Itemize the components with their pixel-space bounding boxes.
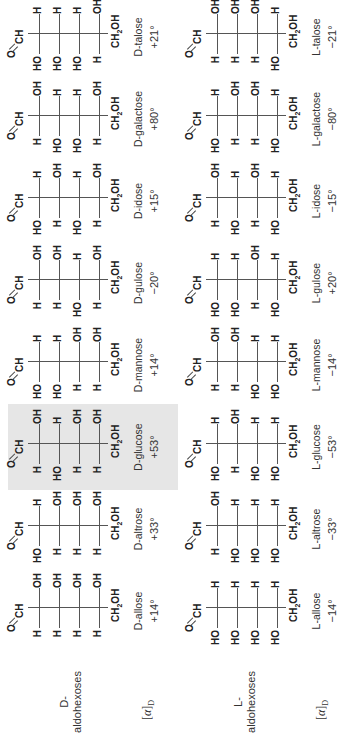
left-substituent: HO — [270, 56, 281, 71]
horizontal-bond — [237, 424, 238, 464]
stereocenter-c2: HOH — [32, 240, 46, 326]
ch-label: CH — [14, 30, 25, 44]
left-substituent: H — [32, 138, 43, 145]
horizontal-bond — [237, 178, 238, 218]
right-substituent: H — [230, 171, 241, 178]
stereocenter-c5: HOH — [92, 76, 106, 162]
d-row-label: D- aldohexoses — [58, 662, 84, 742]
subscript: 2 — [116, 112, 123, 116]
aldehyde-group: OCH — [14, 30, 25, 44]
hydroxymethyl-group: CH2OH — [288, 97, 301, 130]
left-substituent: H — [92, 466, 103, 473]
horizontal-bond — [99, 96, 100, 136]
right-substituent: OH — [72, 573, 83, 588]
stereocenter-c3: HOH — [230, 486, 244, 572]
ch-label: CH — [14, 194, 25, 208]
horizontal-bond — [237, 588, 238, 628]
hydroxymethyl-group: CH2OH — [288, 507, 301, 540]
fischer-projection-d-idose: OCHHOHHOHHOHHOHCH2OHD-idose+15° — [8, 158, 178, 244]
horizontal-bond — [59, 342, 60, 382]
right-substituent: OH — [92, 81, 103, 96]
ch-label: CH — [192, 194, 203, 208]
left-substituent: HO — [72, 220, 83, 235]
ch-label: CH — [14, 112, 25, 126]
left-substituent: HO — [270, 302, 281, 317]
sugar-name: D-talose — [132, 0, 144, 87]
right-substituent: OH — [32, 245, 43, 260]
right-substituent: H — [230, 499, 241, 506]
stereocenter-c2: HOH — [210, 240, 224, 326]
right-substituent: H — [52, 89, 63, 96]
ch-label: CH — [192, 276, 203, 290]
left-substituent: HO — [210, 138, 221, 153]
horizontal-bond — [237, 96, 238, 136]
left-substituent: HO — [250, 466, 261, 481]
fischer-projection-l-talose: OCHHOHHOHHOHHOHCH2OHL-talose−21° — [186, 0, 356, 80]
fischer-projection-d-gulose: OCHHOHHOHHOHHOHCH2OHD-gulose−20° — [8, 240, 178, 326]
fischer-structure: OCHHOHHOHHOHHOHCH2OH — [192, 568, 310, 654]
stereocenter-c4: HOH — [250, 486, 264, 572]
left-substituent: H — [230, 384, 241, 391]
stereocenter-c4: HOH — [72, 322, 86, 408]
stereocenter-c2: HOH — [210, 486, 224, 572]
right-substituent: OH — [230, 327, 241, 342]
stereocenter-c5: HOH — [92, 240, 106, 326]
ch-label: CH — [14, 522, 25, 536]
horizontal-bond — [237, 506, 238, 546]
stereocenter-c5: HOH — [92, 404, 106, 490]
subscript: 2 — [116, 358, 123, 362]
left-substituent: HO — [230, 302, 241, 317]
right-substituent: H — [270, 581, 281, 588]
right-substituent: H — [32, 499, 43, 506]
stereocenter-c2: HOH — [32, 0, 46, 80]
ch-label: CH — [14, 440, 25, 454]
stereocenter-c4: HOH — [72, 0, 86, 80]
stereocenter-c2: HOH — [210, 404, 224, 490]
hydroxymethyl-group: CH2OH — [110, 15, 123, 48]
hydroxymethyl-group: CH2OH — [288, 589, 301, 622]
horizontal-bond — [59, 14, 60, 54]
left-substituent: HO — [52, 138, 63, 153]
right-substituent: OH — [32, 409, 43, 424]
left-substituent: H — [250, 220, 261, 227]
right-substituent: OH — [92, 573, 103, 588]
fischer-structure: OCHHOHHOHHOHHOHCH2OH — [192, 0, 310, 80]
stereocenter-c5: HOH — [270, 404, 284, 490]
left-substituent: HO — [72, 302, 83, 317]
aldehyde-group: OCH — [14, 358, 25, 372]
aldehyde-group: OCH — [192, 522, 203, 536]
right-substituent: H — [250, 581, 261, 588]
horizontal-bond — [39, 588, 40, 628]
right-substituent: H — [270, 7, 281, 14]
left-substituent: H — [92, 138, 103, 145]
horizontal-bond — [39, 96, 40, 136]
aldehyde-group: OCH — [14, 604, 25, 618]
subscript: 2 — [116, 276, 123, 280]
fischer-projection-l-mannose: OCHHOHHOHHOHHOHCH2OHL-mannose−14° — [186, 322, 356, 408]
right-substituent: OH — [210, 327, 221, 342]
horizontal-bond — [79, 178, 80, 218]
stereocenter-c5: HOH — [92, 158, 106, 244]
right-substituent: H — [230, 253, 241, 260]
stereocenter-c4: HOH — [250, 76, 264, 162]
subscript: 2 — [294, 358, 301, 362]
subscript: 2 — [294, 112, 301, 116]
right-substituent: OH — [250, 163, 261, 178]
aldehyde-group: OCH — [14, 276, 25, 290]
horizontal-bond — [79, 260, 80, 300]
stereocenter-c5: HOH — [92, 568, 106, 654]
aldohexose-figure: D- aldohexoses [α]D L- aldohexoses [α]D … — [0, 0, 360, 750]
horizontal-bond — [277, 342, 278, 382]
right-substituent: H — [32, 335, 43, 342]
stereocenter-c4: HOH — [72, 76, 86, 162]
hydroxymethyl-group: CH2OH — [110, 261, 123, 294]
left-substituent: H — [32, 302, 43, 309]
horizontal-bond — [39, 424, 40, 464]
stereocenter-c2: HOH — [32, 322, 46, 408]
right-substituent: H — [230, 581, 241, 588]
stereocenter-c3: HOH — [52, 0, 66, 80]
hydroxymethyl-group: CH2OH — [110, 425, 123, 458]
hydroxymethyl-group: CH2OH — [110, 507, 123, 540]
right-substituent: OH — [52, 245, 63, 260]
left-substituent: H — [72, 548, 83, 555]
